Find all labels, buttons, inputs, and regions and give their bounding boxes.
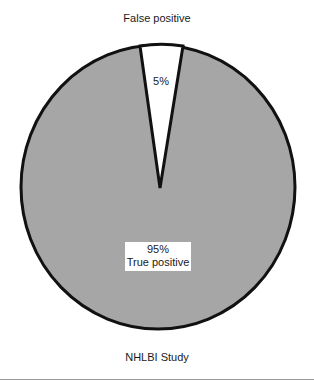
pie-chart <box>0 0 314 383</box>
chart-caption: NHLBI Study <box>0 351 314 363</box>
divider-line <box>0 379 314 380</box>
true-positive-label: True positive <box>125 256 191 269</box>
true-positive-percent: 95% <box>125 243 191 256</box>
false-positive-percent: 5% <box>146 75 176 87</box>
true-positive-label-box: 95% True positive <box>125 242 191 271</box>
